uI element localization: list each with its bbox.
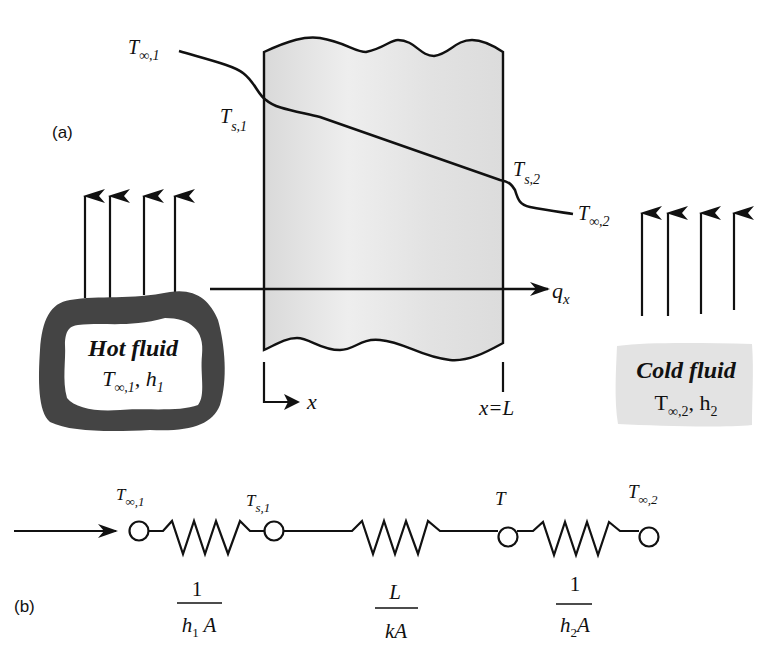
- t-inf1-label: T∞,1: [128, 36, 160, 63]
- resistance-conductive: L kA: [375, 580, 418, 643]
- ts2-label: Ts,2: [513, 158, 540, 187]
- thermal-circuit: [148, 521, 639, 555]
- thermal-circuit-diagram: (a) T∞,1 Ts,1 Ts,2 T∞,2 qx x x=L H: [0, 0, 779, 671]
- node-t-inf2: [640, 528, 659, 547]
- panel-b-label: (b): [14, 597, 35, 616]
- node-label-t-inf1: T∞,1: [116, 485, 145, 509]
- x-equals-l-label: x=L: [478, 396, 514, 420]
- node-ts1: [265, 522, 284, 541]
- resistance-convective-1: 1 h1 A: [177, 577, 222, 640]
- hot-fluid-region: [39, 291, 225, 431]
- resistance-convective-2: 1 h2A: [556, 572, 592, 640]
- plane-wall: [264, 38, 503, 361]
- node-label-t-inf2: T∞,2: [628, 481, 658, 507]
- node-t-inf1: [130, 522, 149, 541]
- panel-a-label: (a): [52, 123, 73, 142]
- cold-fluid-flow-arrows: [642, 213, 734, 316]
- x-axis-label: x: [306, 389, 317, 414]
- hot-fluid-title: Hot fluid: [87, 335, 179, 361]
- node-label-t: T: [495, 488, 507, 509]
- svg-text:1: 1: [570, 572, 581, 596]
- node-t: [499, 528, 518, 547]
- svg-text:h2A: h2A: [560, 613, 590, 640]
- svg-text:kA: kA: [385, 619, 407, 643]
- ts1-label: Ts,1: [220, 105, 247, 134]
- hot-fluid-flow-arrows: [85, 196, 175, 298]
- svg-text:L: L: [388, 580, 401, 604]
- svg-text:1: 1: [192, 577, 203, 601]
- x-axis-origin: [264, 362, 300, 410]
- svg-text:h1 A: h1 A: [182, 613, 217, 640]
- t-inf2-label: T∞,2: [578, 202, 610, 229]
- node-label-ts1: Ts,1: [246, 491, 270, 515]
- heat-flux-label: qx: [552, 278, 570, 307]
- cold-fluid-title: Cold fluid: [636, 357, 736, 383]
